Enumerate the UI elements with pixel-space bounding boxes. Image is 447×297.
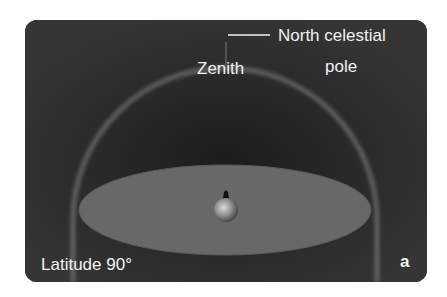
celestial-sphere-panel: North celestial pole Zenith Latitude 90°… bbox=[25, 20, 427, 282]
north-celestial-pole-label-1: North celestial bbox=[278, 27, 386, 44]
earth-globe bbox=[214, 198, 238, 222]
zenith-label: Zenith bbox=[197, 60, 244, 77]
panel-letter: a bbox=[400, 252, 409, 272]
latitude-label: Latitude 90° bbox=[41, 256, 132, 273]
north-celestial-pole-label-2: pole bbox=[325, 58, 357, 75]
